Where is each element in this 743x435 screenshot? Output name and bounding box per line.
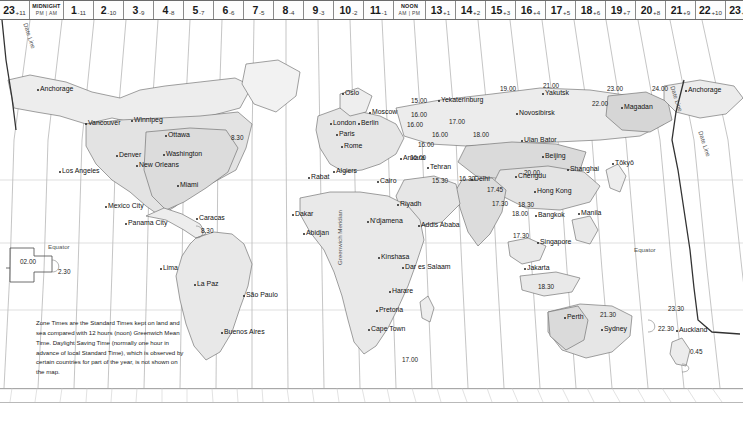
city-marker-dot [601, 329, 603, 331]
ruler-hour-offset: +2 [473, 9, 480, 16]
ruler-hour-number: 22 [699, 4, 710, 16]
ruler-hour-cell-10[interactable]: 9-3 [304, 1, 334, 19]
ruler-hour-number: 13 [431, 4, 442, 16]
map-legend-note: Zone Times are the Standard Times kept o… [36, 318, 186, 377]
ruler-hour-cell-6[interactable]: 5-7 [184, 1, 214, 19]
top-hour-ruler: 23+11MIDNIGHTPM | AM1-112-103-94-85-76-6… [0, 0, 743, 20]
city-marker-dot [165, 135, 167, 137]
city-marker-dot [377, 181, 379, 183]
ruler-hour-cell-17[interactable]: 16+4 [516, 1, 546, 19]
ruler-hour-offset: -4 [289, 9, 295, 16]
city-marker-dot [330, 123, 332, 125]
city-marker-dot [438, 100, 440, 102]
city-marker-dot [521, 140, 523, 142]
ruler-hour-number: 3 [132, 4, 138, 16]
ruler-hour-cell-11[interactable]: 10-2 [334, 1, 364, 19]
ruler-hour-cell-8[interactable]: 7-5 [244, 1, 274, 19]
ruler-hour-cell-23[interactable]: 22+10 [696, 1, 726, 19]
ruler-hour-offset: +6 [593, 9, 600, 16]
ruler-hour-number: 5 [192, 4, 198, 16]
date-line-inset-bracket [6, 248, 52, 282]
ruler-hour-cell-0[interactable]: 23+11 [0, 1, 30, 19]
ruler-hour-offset: -1 [382, 9, 388, 16]
ruler-hour-number: 18 [581, 4, 592, 16]
ruler-hour-number: 4 [162, 4, 168, 16]
city-marker-dot [116, 155, 118, 157]
city-marker-dot [376, 310, 378, 312]
ruler-marker-label: MIDNIGHT [32, 4, 60, 9]
ruler-hour-offset: -7 [199, 9, 205, 16]
city-marker-dot [537, 242, 539, 244]
ruler-hour-offset: -3 [319, 9, 325, 16]
city-marker-dot [564, 317, 566, 319]
ruler-hour-number: 23 [3, 4, 14, 16]
bottom-ruler-ticks [0, 388, 743, 402]
city-marker-dot [163, 154, 165, 156]
city-marker-dot [535, 215, 537, 217]
ruler-hour-cell-24[interactable]: 23+11 [726, 1, 743, 19]
ruler-marker-noon[interactable]: NOONAM | PM [394, 1, 426, 19]
city-marker-dot [515, 176, 517, 178]
bottom-degree-ruler [0, 388, 743, 403]
ruler-hour-cell-12[interactable]: 11-1 [364, 1, 394, 19]
ruler-hour-number: 19 [611, 4, 622, 16]
city-marker-dot [676, 330, 678, 332]
city-marker-dot [37, 89, 39, 91]
ruler-hour-cell-20[interactable]: 19+7 [606, 1, 636, 19]
ruler-hour-offset: -6 [229, 9, 235, 16]
ruler-hour-cell-19[interactable]: 18+6 [576, 1, 606, 19]
city-marker-dot [308, 177, 310, 179]
ruler-hour-cell-2[interactable]: 1-11 [64, 1, 94, 19]
city-marker-dot [221, 332, 223, 334]
ruler-hour-number: 1 [71, 4, 77, 16]
city-marker-dot [160, 268, 162, 270]
ruler-hour-cell-18[interactable]: 17+5 [546, 1, 576, 19]
city-marker-dot [524, 268, 526, 270]
ruler-hour-number: 17 [551, 4, 562, 16]
ruler-hour-number: 16 [521, 4, 532, 16]
city-marker-dot [685, 90, 687, 92]
ruler-hour-offset: -9 [139, 9, 145, 16]
city-marker-dot [105, 206, 107, 208]
ruler-hour-cell-21[interactable]: 20+8 [636, 1, 666, 19]
ruler-hour-offset: +4 [533, 9, 540, 16]
city-marker-dot [427, 167, 429, 169]
city-marker-dot [341, 146, 343, 148]
city-marker-dot [85, 123, 87, 125]
city-marker-dot [397, 204, 399, 206]
city-marker-dot [342, 93, 344, 95]
ruler-hour-cell-9[interactable]: 8-4 [274, 1, 304, 19]
city-marker-dot [368, 329, 370, 331]
city-marker-dot [194, 284, 196, 286]
ruler-hour-offset: +1 [443, 9, 450, 16]
ruler-hour-number: 7 [252, 4, 258, 16]
city-marker-dot [418, 225, 420, 227]
city-marker-dot [125, 223, 127, 225]
city-marker-dot [136, 165, 138, 167]
city-marker-dot [542, 156, 544, 158]
ruler-hour-number: 10 [340, 4, 351, 16]
ruler-marker-sublabel: AM | PM [399, 11, 421, 16]
city-marker-dot [336, 134, 338, 136]
city-marker-dot [196, 218, 198, 220]
ruler-marker-midnight[interactable]: MIDNIGHTPM | AM [30, 1, 64, 19]
ruler-hour-offset: -11 [78, 9, 86, 16]
ruler-marker-sublabel: PM | AM [36, 11, 58, 16]
ruler-hour-cell-22[interactable]: 21+9 [666, 1, 696, 19]
ruler-hour-offset: -5 [259, 9, 265, 16]
city-marker-dot [292, 214, 294, 216]
ruler-hour-offset: +5 [563, 9, 570, 16]
ruler-hour-number: 11 [370, 4, 381, 16]
city-marker-dot [177, 185, 179, 187]
ruler-hour-cell-3[interactable]: 2-10 [94, 1, 124, 19]
ruler-hour-cell-15[interactable]: 14+2 [456, 1, 486, 19]
ruler-hour-cell-4[interactable]: 3-9 [124, 1, 154, 19]
ruler-hour-number: 23 [729, 4, 740, 16]
ruler-hour-cell-5[interactable]: 4-8 [154, 1, 184, 19]
city-marker-dot [369, 112, 371, 114]
ruler-hour-cell-16[interactable]: 15+3 [486, 1, 516, 19]
ruler-hour-number: 2 [101, 4, 107, 16]
ruler-hour-cell-7[interactable]: 6-6 [214, 1, 244, 19]
city-marker-dot [542, 93, 544, 95]
ruler-hour-cell-14[interactable]: 13+1 [426, 1, 456, 19]
